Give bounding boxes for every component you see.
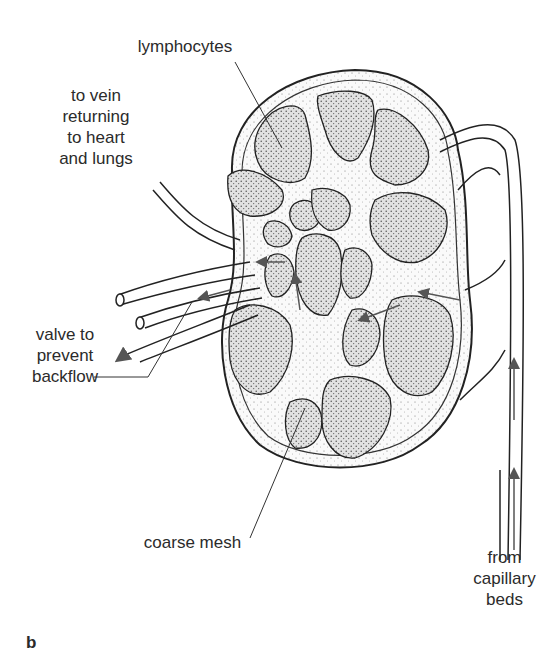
label-from-line3: beds <box>462 589 547 610</box>
label-valve-line2: prevent <box>20 345 110 366</box>
label-from-line1: from <box>462 547 547 568</box>
label-valve-line1: valve to <box>20 324 110 345</box>
label-valve: valve to prevent backflow <box>20 324 110 387</box>
label-from-capillary-beds: from capillary beds <box>462 547 547 610</box>
label-from-line2: capillary <box>462 568 547 589</box>
label-lymphocytes: lymphocytes <box>120 36 250 57</box>
label-to-vein-line3: to heart <box>36 127 156 148</box>
label-coarse-mesh: coarse mesh <box>130 532 255 553</box>
label-to-vein: to vein returning to heart and lungs <box>36 85 156 169</box>
label-to-vein-line4: and lungs <box>36 148 156 169</box>
label-to-vein-line2: returning <box>36 106 156 127</box>
panel-letter: b <box>26 633 36 653</box>
label-to-vein-line1: to vein <box>36 85 156 106</box>
label-valve-line3: backflow <box>20 366 110 387</box>
